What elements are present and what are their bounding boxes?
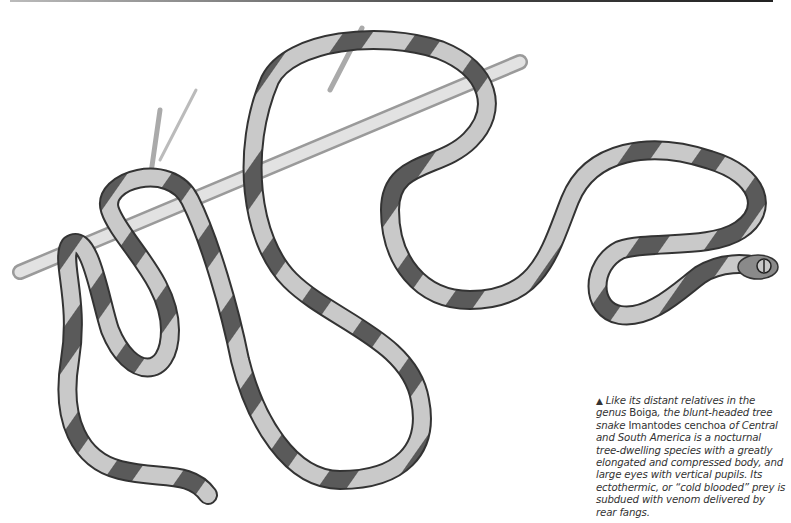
caption-species: Imantodes cenchoa bbox=[629, 420, 726, 431]
caption-genus: Boiga bbox=[629, 407, 657, 418]
figure-caption: ▲Like its distant relatives in the genus… bbox=[596, 395, 786, 519]
caption-marker-icon: ▲ bbox=[596, 396, 603, 406]
caption-text-3: of Central and South America is a noctur… bbox=[596, 420, 785, 518]
snake-head bbox=[738, 255, 778, 279]
